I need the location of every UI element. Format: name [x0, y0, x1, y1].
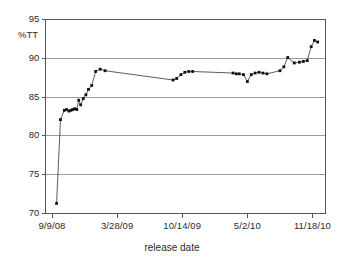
x-tick-label: 11/18/10 [272, 220, 344, 231]
data-point-marker [258, 71, 261, 74]
data-point-marker [75, 108, 78, 111]
data-point-marker [99, 68, 102, 71]
data-point-marker [191, 70, 194, 73]
x-axis-title: release date [0, 242, 344, 253]
y-tick-label: 75 [29, 168, 40, 179]
data-point-marker [172, 79, 175, 82]
data-point-marker [246, 80, 249, 83]
data-point-marker [310, 45, 313, 48]
y-tick-label: 80 [29, 129, 40, 140]
data-point-marker [94, 70, 97, 73]
data-point-marker [242, 73, 245, 76]
data-point-marker [87, 88, 90, 91]
data-point-marker [82, 97, 85, 100]
data-point-marker [293, 62, 296, 65]
series-line-0 [57, 40, 318, 203]
y-tick-label: 85 [29, 91, 40, 102]
data-point-marker [262, 72, 265, 75]
data-point-marker [55, 202, 58, 205]
data-point-marker [250, 73, 253, 76]
data-point-marker [79, 103, 82, 106]
data-point-marker [77, 99, 80, 102]
data-point-marker [302, 60, 305, 63]
data-point-marker [180, 73, 183, 76]
data-point-marker [183, 71, 186, 74]
data-point-marker [104, 69, 107, 72]
data-point-marker [232, 72, 235, 75]
y-axis-title: %TT [18, 29, 38, 40]
data-point-marker [279, 69, 282, 72]
data-point-marker [84, 93, 87, 96]
data-point-marker [175, 77, 178, 80]
data-point-marker [235, 72, 238, 75]
data-point-marker [187, 70, 190, 73]
data-point-marker [266, 72, 269, 75]
data-point-marker [238, 72, 241, 75]
data-point-marker [306, 59, 309, 62]
data-point-marker [59, 118, 62, 121]
data-point-marker [286, 56, 289, 59]
y-tick-label: 70 [29, 207, 40, 218]
data-point-marker [313, 39, 316, 42]
data-point-marker [254, 72, 257, 75]
chart-container: %TT release date 7075808590959/9/083/28/… [0, 0, 344, 267]
y-tick-label: 95 [29, 13, 40, 24]
y-tick-label: 90 [29, 52, 40, 63]
data-point-marker [90, 84, 93, 87]
data-point-marker [316, 41, 319, 44]
data-point-marker [282, 65, 285, 68]
data-point-marker [298, 61, 301, 64]
